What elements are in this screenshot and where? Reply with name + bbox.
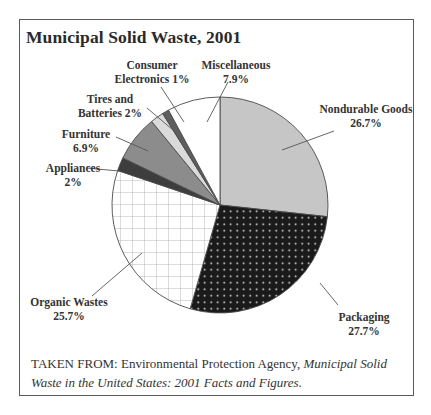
label-tires-batteries: Tires and [87, 93, 134, 105]
pie-chart: Nondurable Goods 26.7% Packaging 27.7% O… [0, 0, 431, 415]
label-appliances: Appliances [46, 162, 101, 175]
label-consumer-electronics: Consumer [126, 59, 177, 71]
slice-nondurable-goods [220, 97, 328, 217]
label-furniture-pct: 6.9% [73, 142, 99, 154]
label-nondurable-goods: Nondurable Goods [320, 103, 414, 115]
label-miscellaneous-pct: 7.9% [223, 73, 249, 85]
label-consumer-electronics-pct: Electronics 1% [115, 73, 190, 85]
source-note: TAKEN FROM: Environmental Protection Age… [31, 354, 401, 392]
label-packaging: Packaging [338, 311, 389, 324]
label-organic-wastes-pct: 25.7% [53, 310, 85, 322]
pie-slices [112, 97, 328, 313]
label-tires-batteries-pct: Batteries 2% [78, 107, 142, 119]
source-prefix: TAKEN FROM: Environmental Protection Age… [31, 356, 304, 371]
label-furniture: Furniture [62, 128, 110, 140]
label-miscellaneous: Miscellaneous [202, 59, 272, 71]
label-packaging-pct: 27.7% [348, 325, 380, 337]
label-appliances-pct: 2% [64, 176, 81, 188]
label-organic-wastes: Organic Wastes [30, 296, 108, 309]
label-nondurable-goods-pct: 26.7% [350, 117, 382, 129]
